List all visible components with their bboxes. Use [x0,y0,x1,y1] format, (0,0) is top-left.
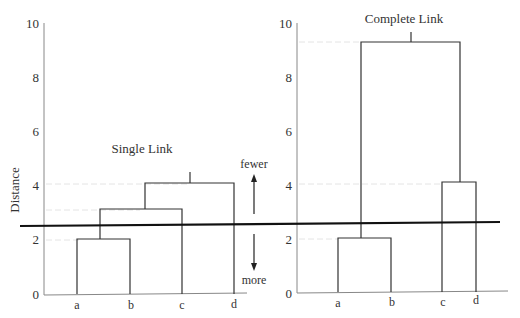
more-label: more [242,273,267,287]
arrow-down-head-icon [251,263,257,271]
dendrogram-figure: Distance 10 8 6 4 2 0 Single Link a [0,0,520,318]
y-tick-label: 4 [286,178,293,193]
leaf-label: c [179,298,184,312]
leaf-label: d [231,297,237,311]
single-link-tree [77,172,234,294]
panel-title-single-link: Single Link [111,141,173,156]
arrow-up-head-icon [251,174,257,182]
complete-link-panel: 10 8 6 4 2 0 Complete Link a b c d [279,11,508,310]
y-tick-label: 8 [286,70,293,85]
cluster-count-arrows: fewer more [240,157,267,287]
y-tick-label: 10 [26,16,39,31]
y-tick-label: 2 [286,232,293,247]
y-tick-label: 2 [33,232,40,247]
leaf-label: d [473,293,479,307]
panel-title-complete-link: Complete Link [365,11,444,26]
y-tick-label: 10 [279,16,292,31]
y-axis-label: Distance [7,167,22,213]
single-link-panel: 10 8 6 4 2 0 Single Link a b c d [26,16,247,312]
leaf-label: a [74,298,80,312]
leaf-label: b [128,298,134,312]
fewer-label: fewer [240,157,267,171]
y-tick-label: 0 [33,287,40,302]
y-tick-label: 6 [33,124,40,139]
leaf-label: c [440,295,445,309]
x-axis [44,293,247,295]
cut-line [20,222,500,226]
leaf-label: b [389,295,395,309]
y-tick-label: 6 [286,124,293,139]
y-tick-label: 0 [286,286,293,301]
y-tick-label: 4 [33,178,40,193]
complete-link-tree [338,32,476,292]
leaf-label: a [335,296,341,310]
y-tick-label: 8 [33,70,40,85]
